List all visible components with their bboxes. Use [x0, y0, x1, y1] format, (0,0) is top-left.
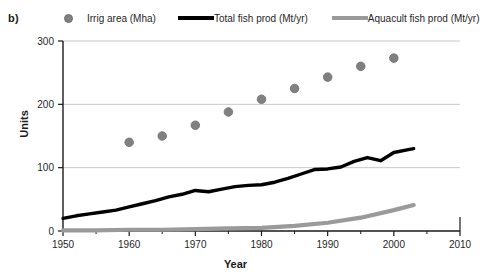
- svg-text:300: 300: [37, 36, 54, 47]
- svg-text:0: 0: [48, 226, 54, 237]
- svg-text:200: 200: [37, 99, 54, 110]
- svg-text:2000: 2000: [383, 239, 406, 250]
- svg-text:1970: 1970: [184, 239, 207, 250]
- y-axis-tick-labels: 0100200300: [37, 36, 54, 237]
- svg-text:100: 100: [37, 162, 54, 173]
- svg-text:1990: 1990: [317, 239, 340, 250]
- svg-text:1960: 1960: [118, 239, 141, 250]
- svg-text:2010: 2010: [449, 239, 471, 250]
- x-axis-tick-labels: 1950196019701980199020002010: [52, 239, 471, 250]
- gridlines: [63, 41, 460, 168]
- svg-text:1980: 1980: [250, 239, 273, 250]
- series-total-fish-prod: [63, 149, 414, 219]
- series-irrig-area: [125, 54, 398, 147]
- y-axis-ticks: [58, 41, 63, 231]
- svg-text:1950: 1950: [52, 239, 75, 250]
